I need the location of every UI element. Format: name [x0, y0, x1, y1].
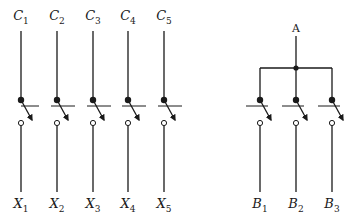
bottom-label-x1: X1 [13, 196, 29, 214]
bottom-label-b2: B2 [287, 196, 303, 214]
top-label-c4: C4 [120, 8, 136, 26]
open-contact-icon [125, 120, 130, 125]
switch-c5 [158, 97, 182, 126]
open-contact-icon [257, 120, 262, 125]
switch-blade-arrow-icon [57, 100, 68, 120]
top-label-c1: C1 [13, 8, 29, 26]
bottom-label-x5: X5 [156, 196, 172, 214]
switch-c4 [122, 97, 146, 126]
open-contact-icon [329, 120, 334, 125]
open-contact-icon [18, 120, 23, 125]
top-label-c2: C2 [49, 8, 65, 26]
switch-b1 [246, 97, 271, 126]
switch-blade-arrow-icon [332, 100, 343, 120]
open-contact-icon [293, 120, 298, 125]
switch-blade-arrow-icon [93, 100, 104, 120]
switch-b2 [282, 97, 307, 126]
switch-blade-arrow-icon [260, 100, 271, 120]
open-contact-icon [54, 120, 59, 125]
bottom-label-x4: X4 [120, 196, 136, 214]
bottom-label-b1: B1 [251, 196, 267, 214]
switch-c2 [51, 97, 75, 126]
switch-blade-arrow-icon [164, 100, 175, 120]
switch-c3 [87, 97, 111, 126]
bottom-label-x3: X3 [85, 196, 101, 214]
open-contact-icon [161, 120, 166, 125]
switch-blade-arrow-icon [128, 100, 139, 120]
switch-b3 [318, 97, 343, 126]
bottom-label-x2: X2 [49, 196, 65, 214]
top-label-c5: C5 [156, 8, 172, 26]
top-label-a: A [291, 22, 301, 35]
top-label-c3: C3 [85, 8, 101, 26]
switch-c1 [18, 97, 39, 126]
switch-blade-arrow-icon [296, 100, 307, 120]
open-contact-icon [90, 120, 95, 125]
switch-diagram: C1X1C2X2C3X3C4X4C5X5AB1B2B3 [0, 0, 360, 223]
bottom-label-b3: B3 [323, 196, 340, 214]
switch-blade-arrow-icon [21, 100, 32, 120]
